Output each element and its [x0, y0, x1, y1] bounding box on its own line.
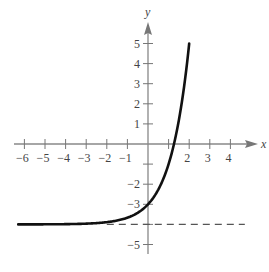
x-axis-label: x	[260, 137, 267, 151]
y-tick-label: −3	[127, 197, 140, 211]
x-tick-label: 3	[205, 151, 211, 165]
x-tick-label: −4	[57, 151, 70, 165]
x-tick-label: −6	[16, 151, 29, 165]
x-tick-label: −2	[98, 151, 111, 165]
y-tick-label: 5	[134, 37, 140, 51]
y-tick-label: 1	[134, 117, 140, 131]
exponential-curve	[18, 44, 189, 225]
y-axis-label: y	[144, 5, 151, 19]
y-tick-label: 4	[134, 57, 140, 71]
exponential-graph: −6−5−4−3−2−123454321−2−3−5 x y	[0, 0, 269, 272]
y-tick-label: 3	[134, 77, 140, 91]
y-tick-label: −5	[127, 238, 140, 252]
y-tick-label: 2	[134, 97, 140, 111]
y-tick-label: −2	[127, 177, 140, 191]
x-tick-label: 4	[225, 151, 231, 165]
x-tick-label: −1	[119, 151, 132, 165]
x-tick-label: 2	[184, 151, 190, 165]
x-tick-label: −3	[78, 151, 91, 165]
x-tick-label: −5	[37, 151, 50, 165]
